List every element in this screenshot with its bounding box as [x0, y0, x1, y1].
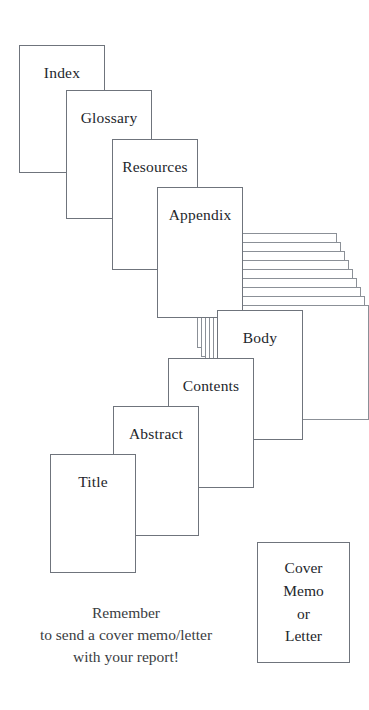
report-card-label: Body	[218, 329, 302, 347]
report-card-label: Resources	[113, 158, 197, 176]
report-card-label: Appendix	[158, 206, 242, 224]
reminder-line: with your report!	[0, 646, 252, 668]
reminder-caption: Rememberto send a cover memo/letterwith …	[0, 602, 252, 668]
cover-memo-or-letter-card: CoverMemoorLetter	[257, 542, 350, 663]
cover-memo-line: Memo	[283, 580, 323, 603]
cover-memo-line: Letter	[285, 625, 322, 648]
report-card-label: Title	[51, 473, 135, 491]
report-card-label: Glossary	[67, 109, 151, 127]
cover-memo-line: or	[297, 603, 310, 626]
report-card-label: Abstract	[114, 425, 198, 443]
report-card-title: Title	[50, 454, 136, 573]
report-card-label: Contents	[169, 377, 253, 395]
reminder-line: Remember	[0, 602, 252, 624]
report-card-label: Index	[20, 64, 104, 82]
report-card-appendix: Appendix	[157, 187, 243, 318]
cover-memo-line: Cover	[285, 557, 323, 580]
reminder-line: to send a cover memo/letter	[0, 624, 252, 646]
